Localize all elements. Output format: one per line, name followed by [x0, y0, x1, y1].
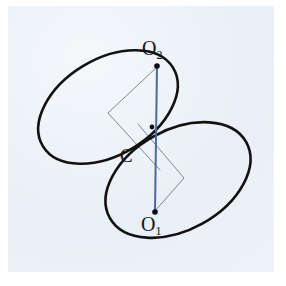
label-o2-base: O	[142, 37, 156, 59]
label-o1: O1	[141, 214, 161, 237]
upper-rhombus-path	[108, 67, 160, 170]
point-o2-dot	[154, 63, 160, 69]
label-o2: O2	[142, 38, 162, 61]
label-c: C	[120, 146, 133, 165]
label-o1-subscript: 1	[155, 224, 161, 238]
label-c-base: C	[120, 145, 133, 166]
lower-rhombus-path	[138, 124, 184, 211]
lower-right-ellipse	[86, 98, 271, 261]
center-axis-segment	[155, 66, 157, 212]
label-o2-subscript: 2	[156, 48, 162, 62]
figure-root: O2 C O1	[0, 0, 286, 286]
point-c-dot	[150, 125, 155, 130]
label-o1-base: O	[141, 213, 155, 235]
